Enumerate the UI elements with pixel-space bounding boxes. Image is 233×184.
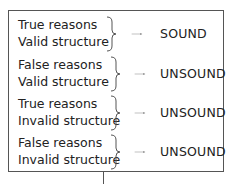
- arrow-icon: [124, 151, 156, 153]
- reasons-label: True reasons: [18, 95, 120, 112]
- reasons-label: True reasons: [18, 16, 109, 33]
- structure-label: Invalid structure: [18, 112, 120, 129]
- brace-icon: [110, 56, 122, 92]
- conditions: True reasons Valid structure: [18, 16, 109, 50]
- structure-label: Invalid structure: [18, 151, 120, 168]
- brace-icon: [110, 134, 122, 170]
- argument-row-false-invalid: False reasons Invalid structure UNSOUND: [8, 134, 224, 170]
- conditions: False reasons Valid structure: [18, 56, 109, 90]
- reasons-label: False reasons: [18, 134, 120, 151]
- result-label: UNSOUND: [160, 66, 226, 82]
- brace-icon: [110, 95, 122, 131]
- result-label: UNSOUND: [160, 105, 226, 121]
- arrow-icon: [124, 112, 156, 114]
- brace-icon: [106, 16, 118, 52]
- argument-row-true-valid: True reasons Valid structure SOUND: [8, 16, 224, 52]
- conditions: False reasons Invalid structure: [18, 134, 120, 168]
- reasons-label: False reasons: [18, 56, 109, 73]
- arrow-icon: [121, 33, 153, 35]
- conditions: True reasons Invalid structure: [18, 95, 120, 129]
- connector-line: [103, 172, 104, 184]
- arrow-icon: [124, 73, 156, 75]
- argument-row-true-invalid: True reasons Invalid structure UNSOUND: [8, 95, 224, 131]
- result-label: SOUND: [160, 26, 207, 42]
- structure-label: Valid structure: [18, 73, 109, 90]
- argument-row-false-valid: False reasons Valid structure UNSOUND: [8, 56, 224, 92]
- structure-label: Valid structure: [18, 33, 109, 50]
- result-label: UNSOUND: [160, 144, 226, 160]
